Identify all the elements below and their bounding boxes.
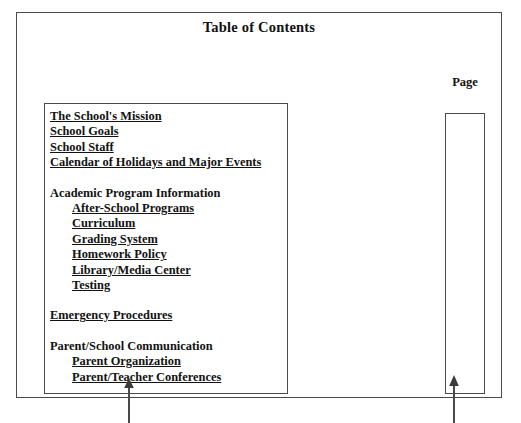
toc-entry-link[interactable]: Emergency Procedures [50,308,283,323]
toc-entry-link[interactable]: Curriculum [50,216,283,231]
toc-entry-label: Grading System [72,232,158,246]
page-number-column-box [445,113,485,394]
toc-entry-link[interactable]: The School's Mission [50,109,283,124]
toc-entry-label: Curriculum [72,216,135,230]
toc-entry-label: The School's Mission [50,109,162,123]
page-column-header: Page [429,75,501,90]
toc-entry-link[interactable]: Calendar of Holidays and Major Events [50,155,283,170]
toc-section-header: Academic Program Information [50,186,283,201]
toc-entry-label: Testing [72,278,110,292]
toc-entry-link[interactable]: School Goals [50,124,283,139]
toc-entry-link[interactable]: Homework Policy [50,247,283,262]
toc-entry-link[interactable]: Parent/Teacher Conferences [50,370,283,385]
toc-entry-link[interactable]: After-School Programs [50,201,283,216]
toc-entry-link[interactable]: Parent Organization [50,354,283,369]
contents-list-box: The School's MissionSchool GoalsSchool S… [44,103,288,394]
arrow-up-icon-page [445,372,463,423]
toc-entry-label: Homework Policy [72,247,167,261]
toc-entry-link[interactable]: Grading System [50,232,283,247]
toc-entry-label: After-School Programs [72,201,194,215]
toc-entry-label: Calendar of Holidays and Major Events [50,155,261,169]
document-frame: Table of Contents Page The School's Miss… [16,12,502,398]
toc-entry-label: School Staff [50,140,114,154]
toc-entry-label: Parent Organization [72,354,181,368]
toc-entry-label: Library/Media Center [72,263,191,277]
toc-entry-link[interactable]: School Staff [50,140,283,155]
table-of-contents-list: The School's MissionSchool GoalsSchool S… [50,109,283,385]
arrow-up-icon-contents [120,376,138,423]
toc-entry-label: Emergency Procedures [50,308,172,322]
toc-section-header: Parent/School Communication [50,339,283,354]
toc-entry-link[interactable]: Library/Media Center [50,263,283,278]
toc-entry-label: School Goals [50,124,119,138]
toc-entry-label: Parent/School Communication [50,339,213,353]
toc-entry-label: Parent/Teacher Conferences [72,370,221,384]
toc-entry-link[interactable]: Testing [50,278,283,293]
page-title: Table of Contents [17,19,501,36]
toc-entry-label: Academic Program Information [50,186,220,200]
